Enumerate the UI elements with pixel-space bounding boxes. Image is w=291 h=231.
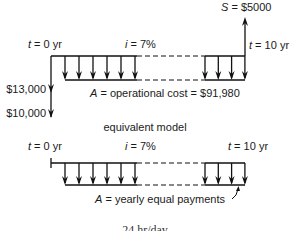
- bottom-interest-rate-label: i = 7%: [125, 140, 156, 152]
- bottom-end-time-label: t = 10 yr: [228, 140, 268, 152]
- bottom-cash-flow: t = 0 yr i = 7% t = 10 yr A = yearly equ…: [28, 140, 268, 205]
- bottom-start-time-label: t = 0 yr: [28, 140, 62, 152]
- top-end-time-label: t = 10 yr: [249, 39, 289, 51]
- salvage-value-label: S = $5000: [221, 1, 271, 13]
- top-cash-flow: t = 0 yr i = 7% t = 10 yr S = $5000 $13,…: [6, 1, 289, 119]
- initial-cost-13000-label: $13,000: [6, 83, 46, 95]
- cash-flow-diagram: t = 0 yr i = 7% t = 10 yr S = $5000 $13,…: [0, 0, 291, 231]
- top-annual-arrows: [62, 56, 248, 80]
- bottom-annual-label: A = yearly equal payments: [94, 193, 225, 205]
- annual-label-pointer-head: [236, 186, 240, 191]
- top-start-time-label: t = 0 yr: [28, 38, 62, 50]
- footer-text: 24 hr/day: [122, 223, 168, 231]
- initial-cost-10000-label: $10,000: [6, 107, 46, 119]
- top-interest-rate-label: i = 7%: [125, 38, 156, 50]
- bottom-annual-arrows: [62, 163, 248, 185]
- top-annual-label: A = operational cost = $91,980: [89, 87, 240, 99]
- equivalent-model-label: equivalent model: [103, 121, 186, 133]
